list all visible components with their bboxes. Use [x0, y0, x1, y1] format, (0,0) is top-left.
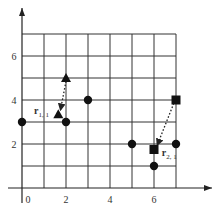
- x-axis-arrow-icon: [204, 185, 212, 191]
- x-tick-label: 0: [26, 194, 31, 205]
- y-tick-label: 2: [12, 139, 17, 150]
- x-tick-label: 6: [152, 194, 157, 205]
- dotted-arrow: [61, 81, 67, 110]
- circle-point-icon: [84, 96, 92, 104]
- square-point-icon: [172, 96, 181, 105]
- circle-point-icon: [150, 162, 158, 170]
- circle-point-icon: [18, 118, 26, 126]
- diagram-canvas: 0246246 r1, 1r2, 1: [0, 0, 216, 211]
- x-tick-label: 4: [108, 194, 113, 205]
- triangle-point-icon: [53, 109, 63, 118]
- y-axis-arrow-icon: [19, 8, 25, 16]
- y-tick-label: 4: [12, 95, 17, 106]
- vector-label-subscript: 1, 1: [39, 111, 50, 119]
- vector-label-r11: r1, 1: [34, 105, 49, 119]
- x-tick-label: 2: [64, 194, 69, 205]
- grid-plot: 0246246 r1, 1r2, 1: [0, 0, 216, 211]
- vector-label-subscript: 2, 1: [166, 153, 177, 161]
- displacement-arrows: [61, 81, 174, 145]
- circle-point-icon: [172, 140, 180, 148]
- circle-point-icon: [128, 140, 136, 148]
- tick-labels: 0246246: [12, 51, 157, 205]
- dotted-arrow: [157, 103, 174, 145]
- square-point-icon: [150, 145, 159, 154]
- circle-point-icon: [62, 118, 70, 126]
- y-tick-label: 6: [12, 51, 17, 62]
- vector-label-r21: r2, 1: [162, 147, 177, 161]
